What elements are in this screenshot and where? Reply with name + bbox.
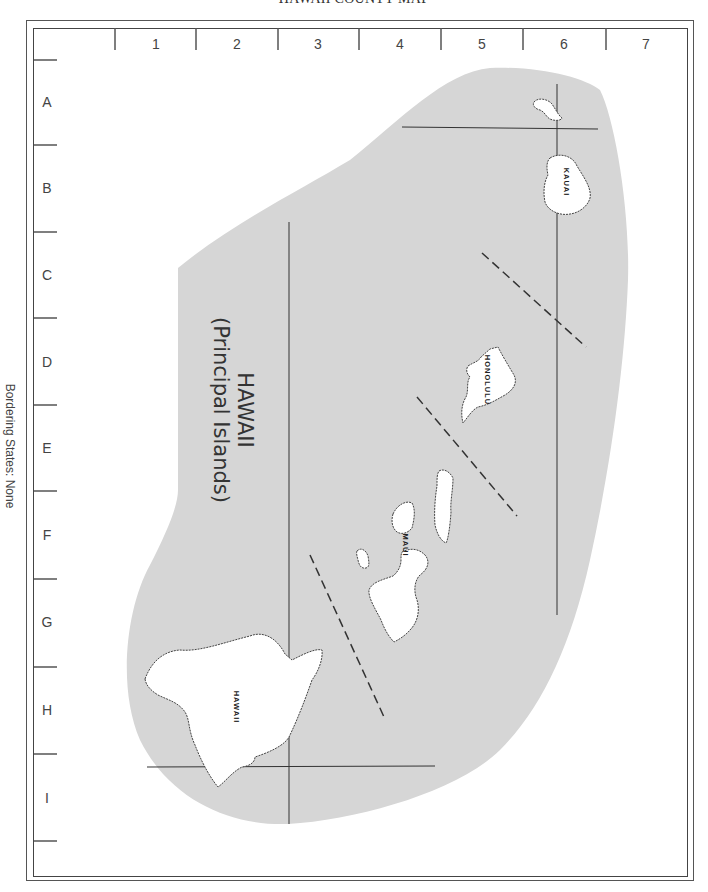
- map-heading-title: HAWAII: [233, 317, 257, 503]
- row-label-f: F: [34, 527, 60, 543]
- column-label-1: 1: [141, 36, 171, 52]
- row-label-c: C: [34, 267, 60, 283]
- island-label-hawaii: HAWAII: [232, 691, 241, 724]
- row-label-a: A: [34, 94, 60, 110]
- column-ticks: [115, 28, 606, 50]
- row-label-b: B: [34, 180, 60, 196]
- row-label-g: G: [34, 614, 60, 630]
- row-label-d: D: [34, 354, 60, 370]
- row-label-i: I: [34, 790, 60, 806]
- bordering-states-note: Bordering States: None: [3, 384, 17, 509]
- island-label-maui: MAUI: [401, 533, 410, 556]
- map-heading-subtitle: (Principal Islands): [209, 317, 233, 503]
- column-label-7: 7: [631, 36, 661, 52]
- column-label-4: 4: [385, 36, 415, 52]
- map-canvas: [0, 0, 708, 892]
- island-label-honolulu: HONOLULU: [483, 355, 492, 406]
- column-label-2: 2: [222, 36, 252, 52]
- column-label-3: 3: [303, 36, 333, 52]
- map-heading: HAWAII (Principal Islands): [209, 317, 257, 503]
- island-label-kauai: KAUAI: [562, 168, 571, 197]
- column-label-5: 5: [467, 36, 497, 52]
- row-label-h: H: [34, 702, 60, 718]
- row-label-e: E: [34, 440, 60, 456]
- column-label-6: 6: [549, 36, 579, 52]
